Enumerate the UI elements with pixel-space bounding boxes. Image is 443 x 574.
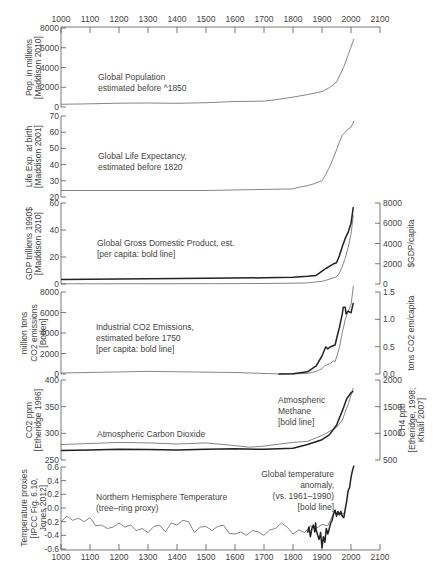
x-tick-label: 1300 <box>139 552 158 562</box>
x-tick-label: 1100 <box>81 14 100 24</box>
y-right-axis-label: [Etheridge, 1998; <box>407 388 417 453</box>
y-right-tick-label: 2000 <box>383 259 402 269</box>
chart-panels: 02000400060008000Pop. in millions[Maddis… <box>19 23 426 554</box>
y-right-tick-label: 500 <box>383 455 397 465</box>
panel-co2_emissions: 02000400060008000million tonsCO2 emissio… <box>19 286 416 379</box>
x-tick-label: 1700 <box>255 552 274 562</box>
annotation-text: (vs. 1961–1990) <box>273 491 335 501</box>
panel-temperature: -0.6-0.4-0.2-0.00.20.40.6Temperature pro… <box>19 462 354 554</box>
annotation-text: Atmospheric <box>278 395 326 405</box>
top-x-axis: 1000110012001300140015001600170018001900… <box>52 14 390 33</box>
y-right-tick-label: 6000 <box>383 218 402 228</box>
y-axis-label: CO2 emissions <box>29 304 39 362</box>
panel-population: 02000400060008000Pop. in millions[Maddis… <box>24 23 354 112</box>
y-axis-label: Pop. in millions <box>24 39 34 96</box>
y-axis-label: CO2 ppm <box>24 402 34 438</box>
y-tick-label: 70 <box>50 111 60 121</box>
y-axis-label: [Maddison 2001] <box>33 125 43 188</box>
annotation-text: Industrial CO2 Emissions, <box>96 322 194 332</box>
x-tick-label: 1800 <box>284 552 303 562</box>
annotation-text: estimated before 1820 <box>98 162 183 172</box>
y-tick-label: 2000 <box>40 349 59 359</box>
y-axis-label: [Etheridge 1996] <box>33 389 43 451</box>
x-tick-label: 1600 <box>226 552 245 562</box>
y-axis-label: [IPCC Fig. 6.10, <box>29 478 39 538</box>
y-right-tick-label: 1.0 <box>383 314 395 324</box>
y-right-tick-label: 0.5 <box>383 342 395 352</box>
y-right-tick-label: 8000 <box>383 198 402 208</box>
annotation-text: [per capita: bold line] <box>97 249 175 259</box>
annotation-text: [per capita: bold line] <box>96 344 174 354</box>
y-axis-label: GDP trillions 1990$ <box>24 207 34 280</box>
y-axis-label: Life Exp. at birth <box>24 126 34 188</box>
x-tick-label: 1400 <box>168 552 187 562</box>
y-tick-label: 0.6 <box>47 462 59 472</box>
y-tick-label: 400 <box>45 375 59 385</box>
x-tick-label: 1600 <box>226 14 245 24</box>
y-tick-label: 350 <box>45 402 59 412</box>
series-line <box>279 303 354 374</box>
x-tick-label: 2000 <box>342 14 361 24</box>
y-right-tick-label: 2000 <box>383 375 402 385</box>
panel-co2_ppm: 250300350400CO2 ppm[Etheridge 1996]50010… <box>24 375 427 465</box>
y-tick-label: 60 <box>50 198 60 208</box>
annotation-text: Global Gross Domestic Product, est. <box>97 238 234 248</box>
annotation-text: [bold line] <box>278 417 314 427</box>
annotation-text: estimated before ^1850 <box>98 83 187 93</box>
x-tick-label: 1900 <box>313 552 332 562</box>
annotation-text: Northern Hemisphere Temperature <box>96 492 227 502</box>
annotation-text: Global Population <box>98 72 165 82</box>
x-tick-label: 1500 <box>197 14 216 24</box>
y-tick-label: 40 <box>50 160 60 170</box>
y-axis-label: [Maddison 2010] <box>33 36 43 99</box>
x-tick-label: 1200 <box>110 552 129 562</box>
annotation-text: (tree–ring proxy) <box>96 503 159 513</box>
x-tick-label: 1900 <box>313 14 332 24</box>
annotation-text: Global temperature <box>261 469 334 479</box>
y-tick-label: -0.6 <box>44 544 59 554</box>
x-tick-label: 1100 <box>81 552 100 562</box>
x-tick-label: 1500 <box>197 552 216 562</box>
bottom-x-axis: 1000110012001300140015001600170018001900… <box>52 544 390 562</box>
annotation-text: estimated before 1750 <box>96 333 181 343</box>
x-tick-label: 2100 <box>371 14 390 24</box>
y-axis-label: Temperature proxies <box>19 469 29 546</box>
x-tick-label: 2000 <box>342 552 361 562</box>
y-tick-label: 30 <box>50 176 60 186</box>
y-axis-label: [Maddison 2010] <box>33 212 43 275</box>
multi-panel-chart: 1000110012001300140015001600170018001900… <box>0 0 443 574</box>
y-tick-label: 0.4 <box>47 476 59 486</box>
panel-life_expectancy: 203040506070Life Exp. at birth[Maddison … <box>24 111 354 202</box>
annotation-text: Methane <box>278 406 311 416</box>
y-tick-label: 8000 <box>40 287 59 297</box>
x-tick-label: 1700 <box>255 14 274 24</box>
y-tick-label: 8000 <box>40 23 59 33</box>
y-axis-label: [Boden] <box>38 318 48 347</box>
x-tick-label: 1200 <box>110 14 129 24</box>
x-tick-label: 1400 <box>168 14 187 24</box>
y-axis-label: Jones 2012] <box>38 485 48 531</box>
y-right-axis-label: Khalil 2007] <box>416 398 426 442</box>
y-right-tick-label: 1.5 <box>383 287 395 297</box>
annotation-text: Atmospheric Carbon Dioxide <box>97 429 205 439</box>
panel-gdp: 0204060GDP trillions 1990$[Maddison 2010… <box>24 198 417 289</box>
y-tick-label: 60 <box>50 127 60 137</box>
x-tick-label: 1300 <box>139 14 158 24</box>
y-tick-label: 50 <box>50 143 60 153</box>
x-tick-label: 2100 <box>371 552 390 562</box>
y-right-axis-label: $GDP/capita <box>406 219 416 267</box>
y-tick-label: 0.2 <box>47 489 59 499</box>
y-tick-label: 300 <box>45 428 59 438</box>
y-axis-label: million tons <box>19 312 29 355</box>
x-tick-label: 1800 <box>284 14 303 24</box>
annotation-text: anomaly, <box>300 480 334 490</box>
y-tick-label: 40 <box>50 225 60 235</box>
y-right-axis-label: tons CO2 em/capita <box>406 295 416 370</box>
y-right-tick-label: 4000 <box>383 239 402 249</box>
annotation-text: [bold line] <box>298 502 334 512</box>
series-line <box>61 513 345 536</box>
y-tick-label: 6000 <box>40 308 59 318</box>
annotation-text: Global Life Expectancy, <box>98 151 187 161</box>
y-right-axis-label: CH4 ppb <box>397 403 407 437</box>
y-tick-label: 20 <box>50 252 60 262</box>
